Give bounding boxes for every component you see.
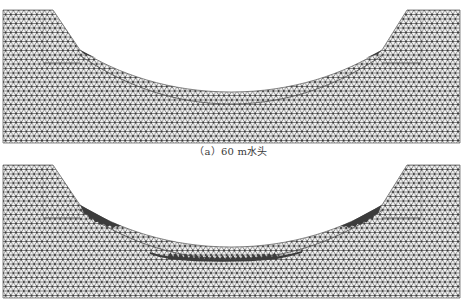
panel-a-mesh [3,10,460,143]
panel-b-domain [3,165,460,298]
panel-a-domain [3,10,460,143]
panel-a-damage-zones [80,50,382,58]
panel-b-mesh [3,165,460,298]
panel-a-caption: （a）60 m水头 [0,146,462,158]
figure: （a）60 m水头 [0,0,462,304]
